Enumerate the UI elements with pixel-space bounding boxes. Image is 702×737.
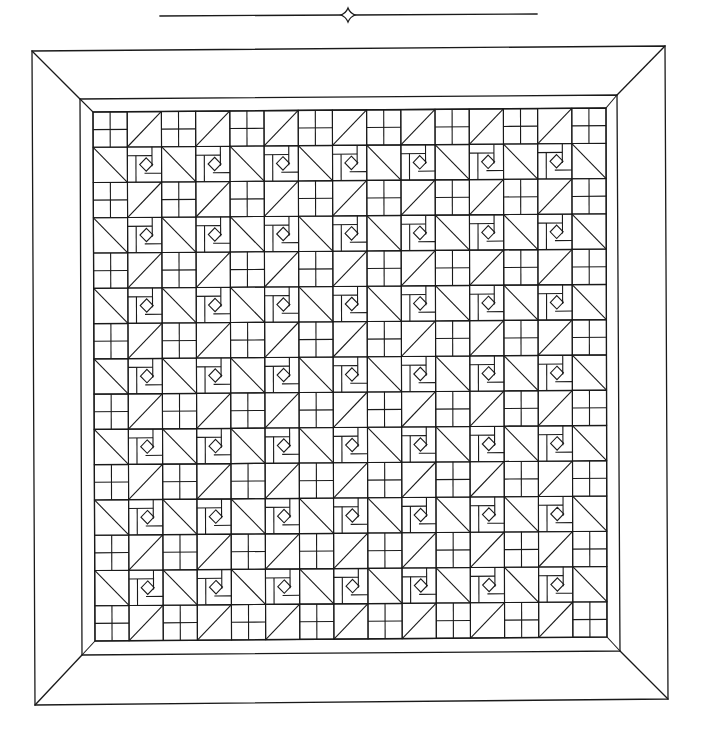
block-four-patch (94, 323, 128, 359)
block-four-patch (504, 461, 538, 497)
block-four-patch (367, 321, 401, 357)
hst-diagonal (300, 569, 334, 604)
spiral-center-square (346, 509, 359, 522)
spiral-center-square (551, 437, 564, 450)
block-four-patch (436, 391, 470, 427)
block-hst-slash (128, 464, 162, 500)
block-hst-slash (266, 604, 300, 640)
block-four-patch (163, 605, 197, 641)
block-outline (333, 357, 367, 393)
hst-diagonal (470, 391, 504, 427)
spiral-center-square (482, 508, 495, 521)
hst-diagonal (538, 249, 572, 285)
block-hst-backslash (93, 147, 127, 183)
block-four-patch (162, 393, 196, 429)
hst-diagonal (402, 533, 436, 569)
hst-diagonal (504, 215, 538, 250)
block-outline (197, 569, 231, 605)
block-outline (538, 285, 572, 321)
block-four-patch (163, 534, 197, 570)
hst-diagonal (196, 181, 230, 217)
hst-diagonal (128, 323, 162, 359)
hst-diagonal (435, 145, 469, 180)
block-four-patch (572, 320, 606, 356)
block-hst-backslash (436, 497, 470, 533)
block-spiral (469, 144, 503, 180)
block-hst-backslash (162, 146, 196, 182)
hst-diagonal (230, 287, 264, 322)
ornament-line-left (160, 15, 342, 16)
block-four-patch (230, 252, 264, 288)
block-hst-slash (129, 605, 163, 641)
block-spiral (402, 497, 436, 533)
block-hst-slash (333, 251, 367, 287)
block-hst-slash (265, 534, 299, 570)
spiral-center-square (277, 368, 290, 381)
block-spiral (265, 569, 299, 605)
block-spiral (128, 429, 162, 465)
hst-diagonal (538, 179, 572, 215)
block-hst-backslash (299, 428, 333, 464)
block-hst-backslash (573, 566, 607, 602)
hst-diagonal (266, 604, 300, 640)
hst-diagonal (163, 499, 197, 534)
block-hst-backslash (163, 429, 197, 465)
hst-diagonal (93, 147, 127, 182)
block-hst-backslash (299, 286, 333, 322)
hst-diagonal (197, 393, 231, 429)
block-hst-backslash (367, 215, 401, 251)
hst-diagonal (128, 394, 162, 430)
block-outline (402, 497, 436, 533)
hst-diagonal (368, 568, 402, 603)
block-hst-slash (265, 463, 299, 499)
block-hst-backslash (504, 496, 538, 532)
hst-diagonal (469, 179, 503, 215)
mitered-corner-tr (617, 46, 665, 95)
block-outline (538, 496, 572, 532)
block-hst-backslash (435, 285, 469, 321)
block-spiral (539, 567, 573, 603)
block-spiral (196, 146, 230, 182)
block-hst-slash (333, 463, 367, 499)
block-four-patch (299, 533, 333, 569)
spiral-center-square (208, 157, 221, 170)
hst-diagonal (538, 320, 572, 356)
block-hst-slash (197, 393, 231, 429)
spiral-center-square (413, 226, 426, 239)
block-hst-backslash (94, 500, 128, 536)
block-four-patch (299, 251, 333, 287)
block-outline (265, 357, 299, 393)
hst-diagonal (127, 111, 161, 147)
spiral-center-square (482, 296, 495, 309)
block-outline (265, 287, 299, 323)
block-four-patch (573, 531, 607, 567)
spiral-center-square (277, 227, 290, 240)
hst-diagonal (94, 429, 128, 464)
spiral-center-square (209, 298, 222, 311)
hst-diagonal (299, 498, 333, 533)
block-outline (538, 426, 572, 462)
spiral-center-square (345, 227, 358, 240)
spiral-center-square (413, 156, 426, 169)
hst-diagonal (436, 427, 470, 462)
hst-diagonal (265, 534, 299, 570)
block-hst-backslash (572, 143, 606, 179)
block-four-patch (94, 253, 128, 289)
hst-diagonal (573, 567, 607, 602)
hst-diagonal (402, 391, 436, 427)
block-hst-slash (470, 461, 504, 497)
block-outline (469, 215, 503, 251)
block-four-patch (299, 392, 333, 428)
block-hst-backslash (504, 214, 538, 250)
block-spiral (334, 498, 368, 534)
spiral-center-square (414, 438, 427, 451)
block-four-patch (504, 320, 538, 356)
hst-diagonal (333, 180, 367, 216)
block-hst-slash (539, 531, 573, 567)
block-four-patch (367, 180, 401, 216)
hst-diagonal (539, 531, 573, 567)
block-hst-slash (470, 250, 504, 286)
ornament-line-right (354, 14, 537, 15)
hst-diagonal (163, 429, 197, 464)
block-four-patch (298, 181, 332, 217)
